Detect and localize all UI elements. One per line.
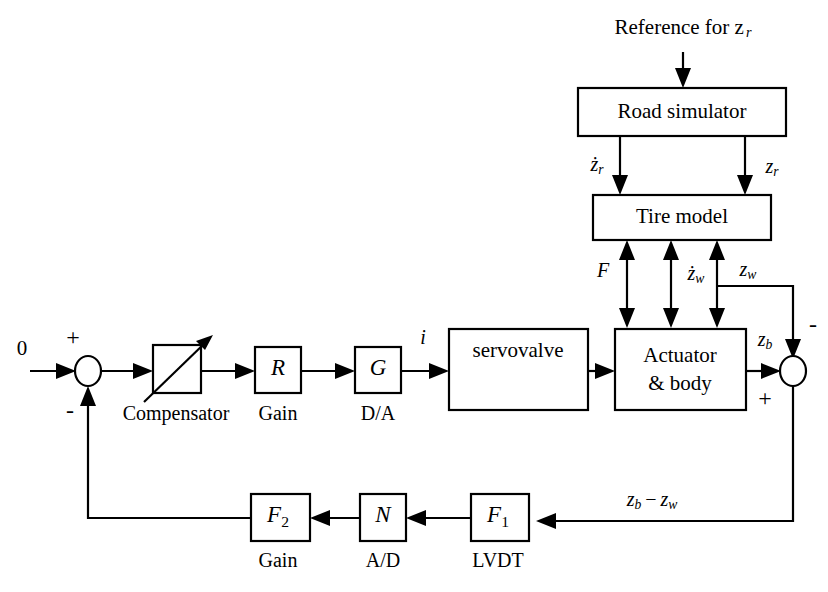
label-current-i: i (420, 326, 426, 348)
reference-label: Reference for zr (615, 15, 752, 40)
wire-zb-to-right-sum (746, 363, 781, 379)
block-compensator (144, 335, 213, 402)
wire-da-to-servovalve (401, 363, 449, 379)
left-sum-plus-sign: + (66, 324, 80, 350)
block-diagram-canvas: Reference for zr Road simulator żr zr Ti… (0, 0, 828, 592)
wire-ad-to-gain-f2 (310, 510, 360, 526)
block-road-simulator-label: Road simulator (618, 99, 747, 123)
left-sum-minus-sign: - (66, 397, 74, 423)
reference-input-arrow (675, 52, 691, 88)
block-tire-model: Tire model (593, 195, 771, 240)
label-zb: zb (757, 328, 773, 353)
block-gain-r-label: R (270, 355, 285, 380)
label-force-F: F (596, 259, 610, 281)
block-compensator-caption: Compensator (123, 402, 230, 425)
wire-input-to-sum (30, 363, 76, 379)
label-zw-dot: żw (687, 262, 705, 287)
label-zr: zr (764, 155, 779, 180)
wire-compensator-to-gain-r (201, 363, 255, 379)
label-input-zero: 0 (17, 336, 28, 360)
right-summing-junction (780, 356, 806, 386)
block-servovalve: servovalve (449, 329, 588, 410)
right-sum-minus-sign: - (809, 311, 817, 337)
wire-gain-r-to-da (301, 363, 355, 379)
block-lvdt-f1: F1 (471, 494, 529, 541)
block-da-g: G (355, 347, 401, 393)
label-zb-minus-zw: zb−zw (626, 488, 678, 513)
wire-sum-to-compensator (101, 363, 153, 379)
block-lvdt-f1-caption: LVDT (472, 549, 523, 571)
right-sum-plus-sign: + (758, 385, 772, 411)
wire-force-F (619, 240, 635, 328)
block-ad-n-caption: A/D (366, 549, 400, 571)
wire-servovalve-to-actuator (588, 363, 615, 379)
block-road-simulator: Road simulator (578, 88, 786, 136)
block-gain-f2: F2 (251, 494, 310, 541)
suspension-block-diagram: Reference for zr Road simulator żr zr Ti… (0, 0, 828, 592)
block-actuator-body-label-line1: Actuator (643, 343, 716, 367)
wire-zrdot (612, 136, 628, 195)
block-servovalve-label: servovalve (473, 338, 564, 362)
label-zr-dot: żr (589, 153, 604, 178)
left-summing-junction (75, 356, 101, 386)
block-da-g-caption: D/A (361, 402, 396, 424)
block-actuator-body-label-line2: & body (648, 371, 712, 395)
block-gain-r-caption: Gain (259, 402, 298, 424)
wire-zr (737, 136, 753, 195)
block-actuator-body: Actuator & body (615, 329, 746, 410)
block-da-g-label: G (370, 355, 387, 380)
block-ad-n: N (360, 494, 406, 541)
wire-zwdot (663, 240, 679, 328)
block-gain-r: R (255, 347, 301, 393)
block-ad-n-label: N (374, 502, 392, 527)
label-zw: zw (739, 258, 757, 283)
block-tire-model-label: Tire model (636, 204, 728, 228)
block-gain-f2-caption: Gain (259, 549, 298, 571)
wire-lvdt-to-ad (406, 510, 471, 526)
